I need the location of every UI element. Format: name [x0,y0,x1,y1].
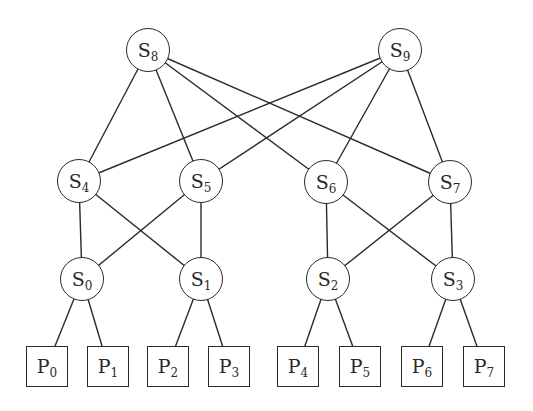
node-label: S2 [318,268,339,290]
node-label: S9 [390,39,411,61]
switch-node-s5: S5 [179,159,223,203]
node-label: S0 [72,268,93,290]
switch-node-s0: S0 [60,257,104,301]
edge-S7-S2 [328,182,450,279]
node-label: P7 [474,355,494,377]
edge-layer [0,0,533,411]
processor-node-p5: P5 [339,346,381,387]
switch-node-s3: S3 [431,257,475,301]
node-label: S6 [316,171,337,193]
switch-node-s8: S8 [126,28,170,72]
edge-S9-S5 [201,50,400,181]
node-label: P0 [37,355,57,377]
node-label: P4 [288,355,308,377]
processor-node-p6: P6 [401,346,443,387]
node-label: P6 [412,355,432,377]
processor-node-p4: P4 [277,346,319,387]
edge-S9-S4 [79,50,400,181]
switch-node-s6: S6 [304,160,348,204]
switch-node-s2: S2 [306,257,350,301]
processor-node-p0: P0 [26,346,68,387]
processor-node-p7: P7 [463,346,505,387]
node-label: P3 [219,355,239,377]
node-label: S1 [191,268,212,290]
node-label: P5 [350,355,370,377]
switch-node-s4: S4 [57,159,101,203]
switch-node-s1: S1 [179,257,223,301]
switch-node-s9: S9 [378,28,422,72]
node-label: P1 [98,355,118,377]
node-label: S5 [191,170,212,192]
network-diagram: S8 S9 S4 S5 S6 S7 S0 S1 S2 S3 P0 P1 P2 P… [0,0,533,411]
node-label: S3 [443,268,464,290]
processor-node-p2: P2 [147,346,189,387]
switch-node-s7: S7 [428,160,472,204]
node-label: P2 [158,355,178,377]
processor-node-p1: P1 [87,346,129,387]
node-label: S7 [440,171,461,193]
processor-node-p3: P3 [208,346,250,387]
node-label: S4 [69,170,90,192]
node-label: S8 [138,39,159,61]
